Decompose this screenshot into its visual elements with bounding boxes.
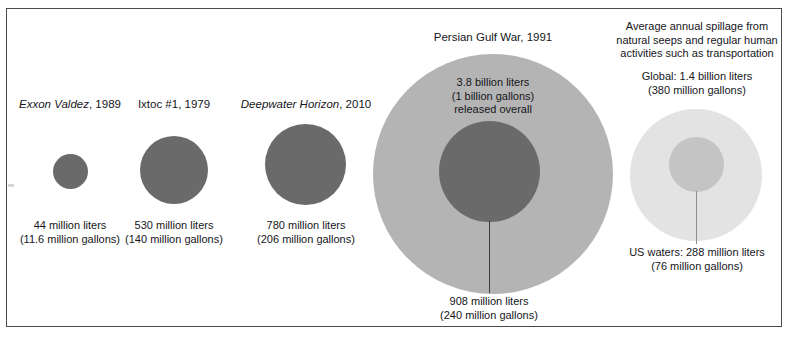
heading-annual-spillage: Average annual spillage from natural see… [612, 20, 782, 61]
deepwater-horizon-year: , 2010 [339, 98, 371, 110]
ixtoc-1-gallons: (140 million gallons) [109, 233, 239, 247]
annual-spillage-us-liters: US waters: 288 million liters [611, 246, 783, 260]
gulf-war-overall-note: released overall [393, 103, 593, 117]
deepwater-horizon-gallons: (206 million gallons) [232, 233, 380, 247]
exxon-valdez-name: Exxon Valdez [19, 98, 89, 110]
annual-spillage-global-liters: Global: 1.4 billion liters [612, 70, 782, 84]
annual-spillage-us-gallons: (76 million gallons) [611, 260, 783, 274]
label-ixtoc-1: Ixtoc #1, 1979 [109, 98, 239, 112]
label-persian-gulf-war: Persian Gulf War, 1991 [373, 31, 613, 45]
annual-spillage-heading-2: natural seeps and regular human [612, 34, 782, 48]
circle-annual-spillage-us-waters [669, 137, 724, 192]
annual-spillage-heading-3: activities such as transportation [612, 47, 782, 61]
annotation-gulf-war-overall: 3.8 billion liters (1 billion gallons) r… [393, 76, 593, 117]
gulf-war-overall-liters: 3.8 billion liters [393, 76, 593, 90]
circle-deepwater-horizon [265, 124, 346, 205]
gulf-war-overall-gallons: (1 billion gallons) [393, 90, 593, 104]
infographic-root: Exxon Valdez, 1989 44 million liters (11… [0, 0, 790, 341]
caption-annual-spillage-global: Global: 1.4 billion liters (380 million … [612, 70, 782, 97]
caption-gulf-war-spilled: 908 million liters (240 million gallons) [389, 295, 589, 322]
gulf-war-spilled-liters: 908 million liters [389, 295, 589, 309]
caption-ixtoc-1: 530 million liters (140 million gallons) [109, 219, 239, 246]
figure-stage: Exxon Valdez, 1989 44 million liters (11… [0, 0, 790, 341]
circle-exxon-valdez [53, 154, 88, 189]
label-deepwater-horizon: Deepwater Horizon, 2010 [232, 98, 380, 112]
scan-artifact [8, 184, 14, 187]
caption-deepwater-horizon: 780 million liters (206 million gallons) [232, 219, 380, 246]
annual-spillage-heading-1: Average annual spillage from [612, 20, 782, 34]
persian-gulf-war-title: Persian Gulf War, 1991 [434, 31, 552, 43]
leader-line-us-waters [696, 191, 697, 244]
ixtoc-1-name: Ixtoc #1, 1979 [138, 98, 210, 110]
deepwater-horizon-liters: 780 million liters [232, 219, 380, 233]
caption-annual-spillage-us-waters: US waters: 288 million liters (76 millio… [611, 246, 783, 273]
circle-gulf-war-spilled [439, 121, 540, 222]
deepwater-horizon-name: Deepwater Horizon [241, 98, 339, 110]
ixtoc-1-liters: 530 million liters [109, 219, 239, 233]
annual-spillage-global-gallons: (380 million gallons) [612, 84, 782, 98]
leader-line-gulf-war [489, 221, 490, 293]
circle-ixtoc-1 [140, 136, 208, 204]
gulf-war-spilled-gallons: (240 million gallons) [389, 309, 589, 323]
